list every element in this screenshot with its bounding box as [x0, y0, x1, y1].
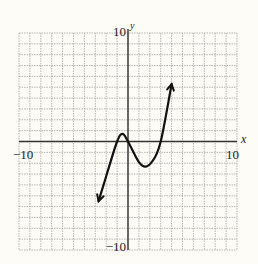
cubic-graph: x y −10 10 10 −10: [0, 0, 258, 264]
y-axis-label: y: [129, 20, 135, 31]
x-max-tick-label: 10: [226, 147, 239, 162]
y-min-tick-label: −10: [106, 239, 126, 254]
y-max-tick-label: 10: [113, 24, 126, 39]
x-axis-label: x: [240, 132, 247, 146]
x-min-tick-label: −10: [13, 147, 33, 162]
